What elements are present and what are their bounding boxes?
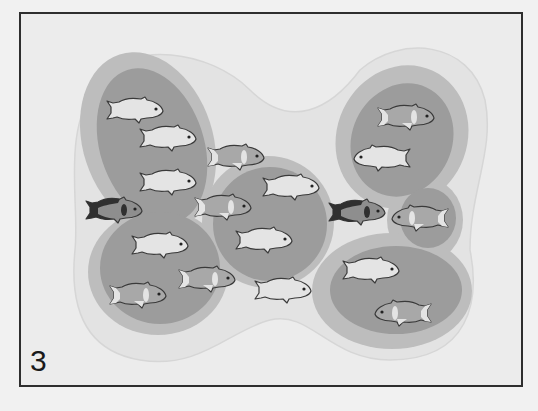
panel-number-label: 3	[30, 346, 47, 376]
fish-territory-diagram	[0, 0, 538, 411]
